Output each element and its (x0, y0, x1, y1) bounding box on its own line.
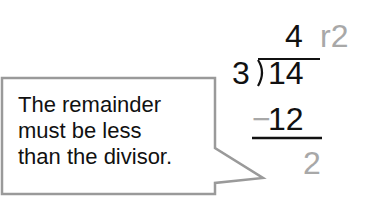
callout-line-1: The remainder (18, 92, 172, 118)
callout-line-2: must be less (18, 118, 172, 144)
divisor: 3 (232, 57, 250, 89)
quotient: 4 (285, 20, 303, 52)
dividend: 14 (268, 57, 304, 89)
remainder-label: r2 (320, 20, 348, 52)
callout-line-3: than the divisor. (18, 144, 172, 170)
callout-text: The remainder must be less than the divi… (18, 92, 172, 170)
difference: 2 (303, 147, 321, 179)
subtrahend: 12 (268, 103, 304, 135)
